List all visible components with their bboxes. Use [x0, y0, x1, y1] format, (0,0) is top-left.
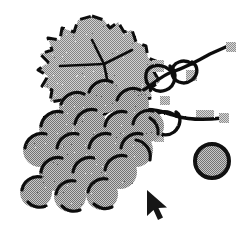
tendril-highlight	[160, 96, 170, 105]
grapes-illustration	[0, 0, 247, 231]
tendril-cap-icon	[219, 113, 229, 123]
tendril-cap-icon	[226, 42, 236, 52]
single-grape-group	[195, 144, 229, 178]
clipart-canvas: Grape cluster with leaf and tendrils	[0, 0, 247, 231]
tendril-highlight	[196, 110, 214, 118]
single-grape	[195, 144, 229, 178]
